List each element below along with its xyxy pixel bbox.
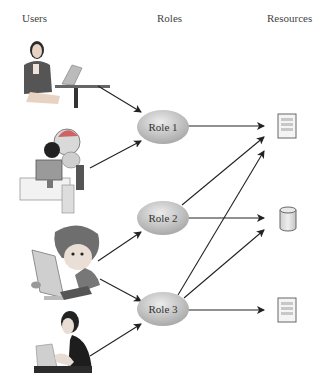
user-3-cartoon-boy-icon (31, 225, 100, 300)
diagram-canvas: Role 1 Role 2 Role 3 (0, 0, 325, 387)
resource-2-database-icon (280, 207, 296, 231)
role-3-node: Role 3 (137, 292, 189, 326)
arrow-user2-role1 (90, 141, 141, 168)
arrow-user3-role3 (100, 279, 141, 301)
role-resource-arrows (178, 126, 264, 310)
rbac-diagram: Users Roles Resources (0, 0, 325, 387)
arrow-user1-role1 (98, 86, 141, 112)
role-2-node: Role 2 (137, 201, 189, 235)
role-1-label: Role 1 (148, 121, 177, 133)
arrow-user4-role3 (90, 324, 141, 356)
user-role-arrows (90, 86, 141, 356)
role-2-label: Role 2 (148, 212, 177, 224)
user-4-woman-laptop-icon (34, 311, 92, 373)
arrow-user3-role2 (98, 232, 141, 261)
role-1-node: Role 1 (137, 110, 189, 144)
resource-3-document-icon (278, 298, 296, 322)
role-3-label: Role 3 (148, 303, 178, 315)
resource-1-document-icon (278, 114, 296, 138)
user-1-woman-laptop-icon (24, 41, 110, 108)
user-2-cartoon-dog-icon (20, 129, 84, 213)
